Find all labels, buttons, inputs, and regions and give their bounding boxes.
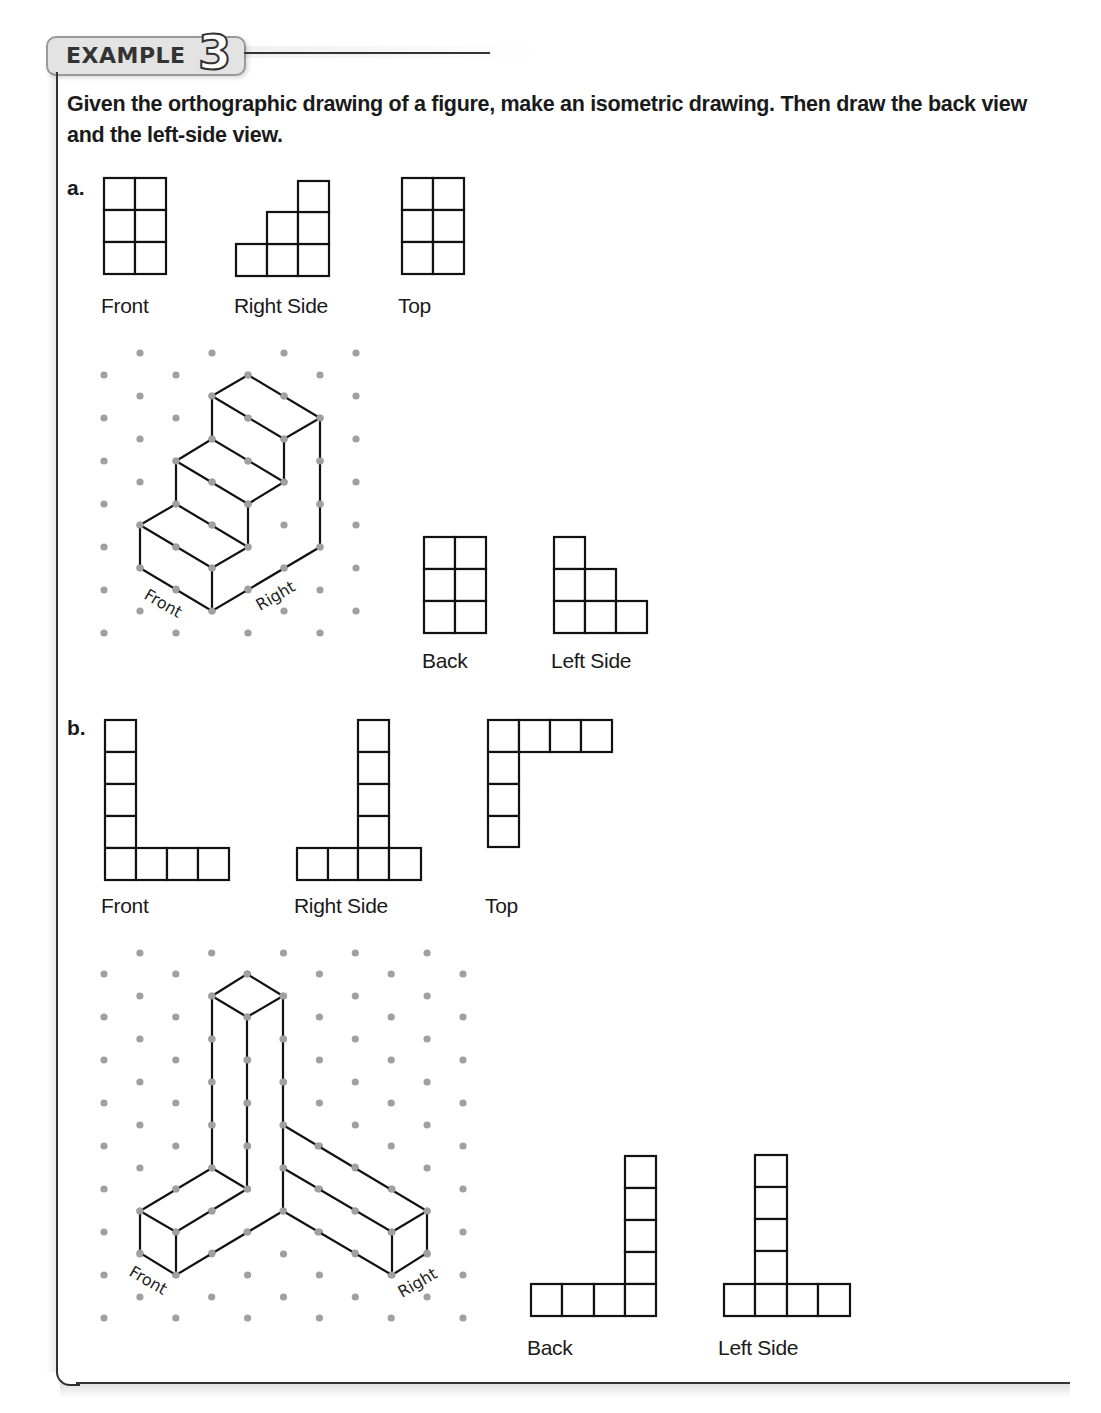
a-front-view xyxy=(104,178,166,274)
b-front-view xyxy=(105,720,229,880)
a-isometric-staircase: Front Right xyxy=(136,371,323,621)
a-right-side-view xyxy=(236,181,329,276)
b-left-side-view xyxy=(724,1155,850,1316)
b-right-side-view xyxy=(297,720,421,880)
figures-canvas: Front Right xyxy=(0,0,1101,1413)
a-back-view xyxy=(424,537,486,633)
a-top-view xyxy=(402,178,464,274)
a-left-side-view xyxy=(554,537,647,633)
b-top-view xyxy=(488,720,612,847)
b-back-view xyxy=(531,1156,656,1316)
